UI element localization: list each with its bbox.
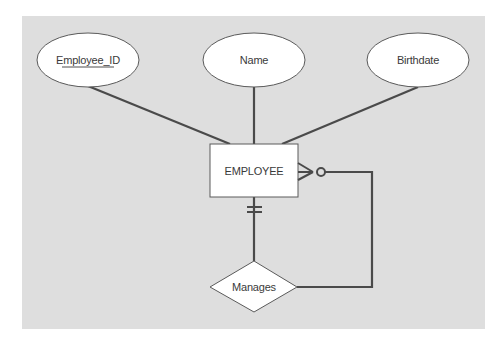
attribute-birthdate[interactable]: Birthdate	[367, 33, 469, 87]
relationship-manages-label: Manages	[232, 281, 277, 293]
attribute-employee-id[interactable]: Employee_ID	[37, 33, 139, 87]
entity-employee-label: EMPLOYEE	[225, 165, 284, 177]
attribute-name-label: Name	[240, 54, 269, 66]
entity-employee[interactable]: EMPLOYEE	[210, 144, 298, 197]
er-diagram-canvas: Employee_ID Name Birthdate EMPLOYEE	[0, 0, 502, 344]
attribute-birthdate-label: Birthdate	[397, 54, 439, 66]
attribute-name[interactable]: Name	[203, 33, 305, 87]
attribute-employee-id-label: Employee_ID	[56, 54, 120, 66]
